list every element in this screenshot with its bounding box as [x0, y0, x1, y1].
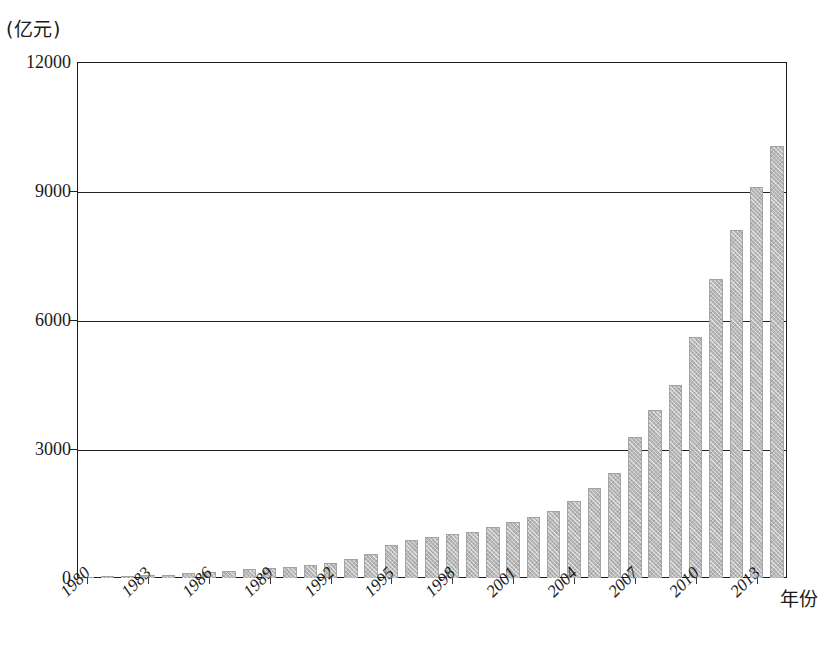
x-tick-mark-1980 — [87, 578, 88, 584]
x-axis-ticks: 1980198319861989199219951998200120042007… — [0, 578, 821, 646]
gridline-3000 — [78, 450, 786, 451]
x-axis-title: 年份 — [780, 584, 818, 611]
y-tick-label-9000: 9000 — [3, 182, 71, 200]
y-tick-label-12000: 12000 — [3, 53, 71, 71]
gridline-9000 — [78, 192, 786, 193]
y-tick-mark-9000 — [69, 191, 77, 192]
x-tick-mark-2010 — [696, 578, 697, 584]
x-tick-mark-1983 — [148, 578, 149, 584]
gridline-6000 — [78, 321, 786, 322]
x-tick-mark-1986 — [209, 578, 210, 584]
y-tick-label-3000: 3000 — [3, 440, 71, 458]
bar-chart: (亿元) 030006000900012000 1980198319861989… — [0, 0, 821, 646]
x-tick-mark-1998 — [452, 578, 453, 584]
x-tick-mark-2001 — [513, 578, 514, 584]
y-tick-mark-3000 — [69, 449, 77, 450]
x-tick-mark-2013 — [757, 578, 758, 584]
x-tick-mark-1992 — [331, 578, 332, 584]
x-tick-mark-1989 — [270, 578, 271, 584]
x-tick-mark-1995 — [391, 578, 392, 584]
x-tick-mark-2004 — [574, 578, 575, 584]
y-tick-label-6000: 6000 — [3, 311, 71, 329]
plot-area — [77, 62, 787, 578]
y-tick-mark-6000 — [69, 320, 77, 321]
y-axis-ticks: 030006000900012000 — [0, 0, 71, 646]
x-tick-mark-2007 — [635, 578, 636, 584]
